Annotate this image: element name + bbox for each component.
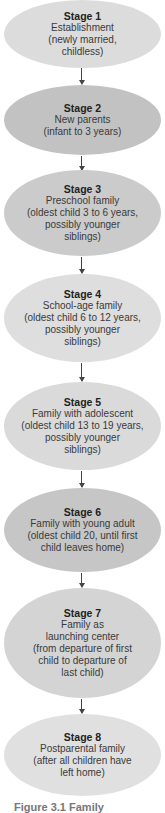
- stage-8-node: Stage 8 Postparental family (after all c…: [4, 714, 161, 796]
- stage-8-title: Stage 8: [64, 731, 101, 743]
- stage-7-node: Stage 7 Family as launching center (from…: [4, 588, 161, 698]
- arrow-down-icon: [81, 156, 82, 170]
- stage-6-description: Family with young adult (oldest child 20…: [27, 518, 137, 554]
- stage-5-node: Stage 5 Family with adolescent (oldest c…: [4, 382, 161, 470]
- stage-1-title: Stage 1: [64, 10, 101, 22]
- stage-7-description: Family as launching center (from departu…: [33, 619, 132, 679]
- stage-2-node: Stage 2 New parents (infant to 3 years): [4, 85, 161, 155]
- arrow-down-icon: [81, 471, 82, 487]
- stage-6-title: Stage 6: [64, 506, 101, 518]
- stage-8-description: Postparental family (after all children …: [33, 743, 131, 779]
- stage-4-title: Stage 4: [64, 288, 101, 300]
- stage-6-node: Stage 6 Family with young adult (oldest …: [4, 488, 161, 572]
- stage-2-description: New parents (infant to 3 years): [44, 114, 122, 138]
- stage-7-title: Stage 7: [64, 607, 101, 619]
- stage-3-title: Stage 3: [64, 183, 101, 195]
- stage-4-node: Stage 4 School-age family (oldest child …: [4, 274, 161, 362]
- stage-4-description: School-age family (oldest child 6 to 12 …: [24, 300, 141, 348]
- stage-1-node: Stage 1 Establishment (newly married, ch…: [4, 0, 161, 68]
- stage-5-description: Family with adolescent (oldest child 13 …: [21, 408, 143, 456]
- stage-3-description: Preschool family (oldest child 3 to 6 ye…: [27, 195, 138, 243]
- arrow-down-icon: [81, 699, 82, 713]
- arrow-down-icon: [81, 363, 82, 381]
- arrow-down-icon: [81, 257, 82, 273]
- stage-3-node: Stage 3 Preschool family (oldest child 3…: [4, 170, 161, 256]
- figure-caption: Figure 3.1 Family: [14, 801, 104, 813]
- arrow-down-icon: [81, 68, 82, 84]
- stage-1-description: Establishment (newly married, childless): [48, 22, 116, 58]
- stage-2-title: Stage 2: [64, 102, 101, 114]
- stage-5-title: Stage 5: [64, 396, 101, 408]
- arrow-down-icon: [81, 573, 82, 587]
